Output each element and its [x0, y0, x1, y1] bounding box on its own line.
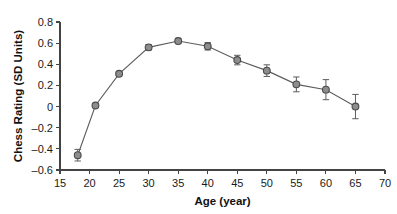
y-tick-label: 0.6	[38, 37, 53, 49]
x-tick-label: 15	[54, 177, 66, 189]
data-point-marker	[175, 38, 182, 45]
x-tick-label: 20	[83, 177, 95, 189]
x-tick-label: 70	[379, 177, 391, 189]
x-tick-label: 40	[202, 177, 214, 189]
x-tick-label: 50	[261, 177, 273, 189]
y-tick-label: 0	[47, 101, 53, 113]
chess-rating-figure: 152025303540455055606570–0.6–0.4–0.200.2…	[0, 0, 397, 214]
x-tick-label: 25	[113, 177, 125, 189]
data-point-marker	[116, 70, 123, 77]
y-tick-label: 0.4	[38, 58, 53, 70]
y-axis-title: Chess Rating (SD Units)	[12, 30, 24, 162]
chess-rating-line-chart: 152025303540455055606570–0.6–0.4–0.200.2…	[0, 0, 397, 214]
data-point-marker	[263, 67, 270, 74]
x-tick-label: 30	[143, 177, 155, 189]
data-point-marker	[74, 152, 81, 159]
data-point-marker	[293, 81, 300, 88]
y-tick-label: –0.6	[32, 164, 53, 176]
x-tick-label: 45	[231, 177, 243, 189]
x-tick-label: 55	[290, 177, 302, 189]
data-point-marker	[234, 57, 241, 64]
x-tick-label: 65	[349, 177, 361, 189]
y-tick-label: 0.8	[38, 16, 53, 28]
y-tick-label: –0.2	[32, 122, 53, 134]
data-line	[78, 41, 356, 155]
plot-area: 152025303540455055606570–0.6–0.4–0.200.2…	[12, 16, 391, 207]
x-tick-label: 35	[172, 177, 184, 189]
data-point-marker	[145, 44, 152, 51]
data-point-marker	[204, 43, 211, 50]
x-tick-label: 60	[320, 177, 332, 189]
y-tick-label: –0.4	[32, 143, 53, 155]
y-tick-label: 0.2	[38, 79, 53, 91]
data-point-marker	[323, 86, 330, 93]
data-point-marker	[92, 102, 99, 109]
data-point-marker	[352, 103, 359, 110]
x-axis-title: Age (year)	[194, 195, 250, 207]
